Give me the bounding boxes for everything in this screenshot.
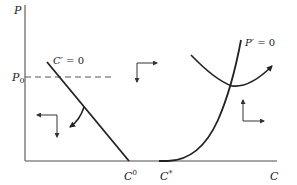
p-prime-zero-label: P′ = 0	[244, 37, 275, 48]
phase-arrow-upper-middle	[137, 63, 157, 82]
x-axis-label: C	[270, 170, 279, 183]
phase-arrow-lower-right	[243, 100, 264, 121]
cstar-label: C*	[160, 169, 172, 183]
phase-arrow-lower-left	[37, 115, 57, 137]
phase-diagram: P C P0 C′ = 0 P′ = 0 C0 C*	[0, 0, 297, 185]
p0-label: P0	[11, 71, 25, 85]
p-prime-zero-curve	[159, 40, 241, 161]
c-prime-zero-label: C′ = 0	[53, 55, 84, 66]
y-axis-label: P	[13, 4, 22, 17]
saddle-arrow	[70, 107, 84, 127]
c0-label: C0	[124, 169, 137, 183]
